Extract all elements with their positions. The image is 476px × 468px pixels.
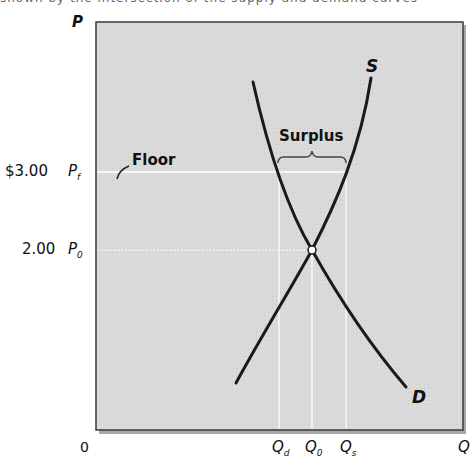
qd-symbol-sub: d <box>284 448 290 458</box>
surplus-annotation: Surplus <box>279 127 343 145</box>
origin-label: 0 <box>80 439 89 455</box>
floor-symbol-sub: f <box>77 172 80 182</box>
qs-label: Qs <box>340 438 357 458</box>
equilibrium-point <box>308 246 316 254</box>
floor-price-value: $3.00 <box>5 162 48 180</box>
equilibrium-price-value: 2.00 <box>22 240 55 258</box>
price-axis-label: P <box>72 13 83 31</box>
supply-demand-chart <box>0 0 476 468</box>
floor-price-symbol: Pf <box>68 162 80 182</box>
qd-symbol-main: Q <box>272 438 284 456</box>
qs-symbol-sub: s <box>352 448 357 458</box>
floor-symbol-main: P <box>68 162 77 180</box>
q0-symbol-sub: 0 <box>317 448 323 458</box>
supply-curve-label: S <box>366 56 378 76</box>
q0-symbol-main: Q <box>305 438 317 456</box>
quantity-axis-label: Q <box>458 438 470 456</box>
qd-label: Qd <box>272 438 290 458</box>
equilibrium-price-symbol: P0 <box>68 240 83 260</box>
eq-symbol-sub: 0 <box>77 250 83 260</box>
q0-label: Q0 <box>305 438 323 458</box>
demand-curve-label: D <box>412 387 426 407</box>
floor-annotation: Floor <box>132 151 175 169</box>
qs-symbol-main: Q <box>340 438 352 456</box>
eq-symbol-main: P <box>68 240 77 258</box>
